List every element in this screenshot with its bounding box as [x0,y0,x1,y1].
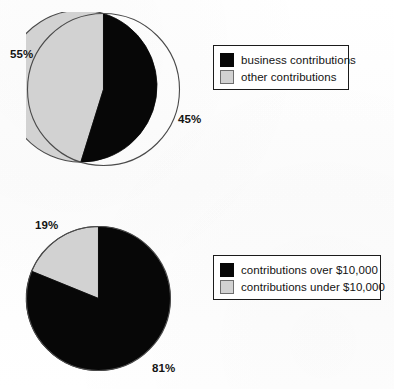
legend-item-other: other contributions [220,68,340,85]
legend-label-over-10000: contributions over $10,000 [241,263,378,277]
legend-label-other: other contributions [241,70,337,84]
pie-bottom-label-under: 19% [35,219,58,231]
pie-bottom-svg [25,225,172,372]
legend-swatch-light-icon [220,280,234,294]
legend-contributions-source: business contributions other contributio… [213,45,349,90]
scanned-page: 55% 45% business contributions other con… [0,0,394,389]
pie-top-label-business: 45% [178,113,201,125]
legend-swatch-dark-icon [220,263,234,277]
pie-top-svg [26,12,181,167]
legend-swatch-light-icon [220,70,234,84]
legend-item-over-10000: contributions over $10,000 [220,261,372,278]
legend-label-business: business contributions [241,53,356,67]
chart-contributions-size: 19% 81% contributions over $10,000 contr… [0,195,394,389]
legend-label-under-10000: contributions under $10,000 [241,280,385,294]
chart-contributions-source: 55% 45% business contributions other con… [0,0,394,195]
pie-top-label-other: 55% [10,48,33,60]
legend-swatch-dark-icon [220,53,234,67]
pie-chart-top [26,12,181,167]
legend-item-under-10000: contributions under $10,000 [220,278,372,295]
legend-contributions-size: contributions over $10,000 contributions… [213,255,381,300]
legend-item-business: business contributions [220,51,340,68]
pie-chart-bottom [25,225,172,372]
pie-bottom-label-over: 81% [152,362,175,374]
